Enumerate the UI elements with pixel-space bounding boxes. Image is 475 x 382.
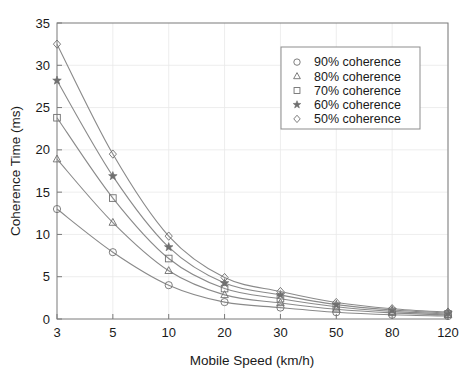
legend-entry-label: 70% coherence [314, 84, 401, 98]
x-tick-label: 5 [109, 325, 116, 340]
x-tick-label: 3 [53, 325, 60, 340]
y-tick-label: 30 [36, 58, 50, 73]
y-tick-label: 25 [36, 100, 50, 115]
x-tick-label: 120 [437, 325, 459, 340]
y-tick-label: 5 [43, 269, 50, 284]
x-tick-label: 20 [217, 325, 231, 340]
legend-entry-label: 80% coherence [314, 70, 401, 84]
y-tick-label: 0 [43, 312, 50, 327]
x-axis-title: Mobile Speed (km/h) [190, 353, 315, 368]
chart-figure: 05101520253035 351020305080120 90% coher… [0, 0, 475, 382]
chart-legend: 90% coherence80% coherence70% coherence6… [281, 47, 420, 129]
y-tick-label: 15 [36, 185, 50, 200]
legend-entry-label: 60% coherence [314, 98, 401, 112]
y-axis-title: Coherence Time (ms) [8, 106, 23, 236]
x-tick-label: 10 [161, 325, 175, 340]
legend-entry-label: 90% coherence [314, 55, 401, 69]
x-tick-label: 50 [329, 325, 343, 340]
x-tick-label: 30 [273, 325, 287, 340]
x-tick-label: 80 [385, 325, 399, 340]
y-tick-label: 10 [36, 227, 50, 242]
y-tick-label: 35 [36, 16, 50, 31]
y-tick-label: 20 [36, 142, 50, 157]
legend-entry-label: 50% coherence [314, 112, 401, 126]
coherence-time-line-chart: 05101520253035 351020305080120 90% coher… [0, 0, 475, 382]
